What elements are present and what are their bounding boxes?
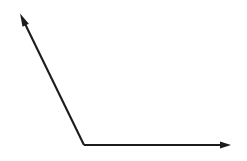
- angle-diagram: [0, 0, 247, 161]
- diagram-canvas: [0, 0, 247, 161]
- diagram-background: [0, 0, 247, 161]
